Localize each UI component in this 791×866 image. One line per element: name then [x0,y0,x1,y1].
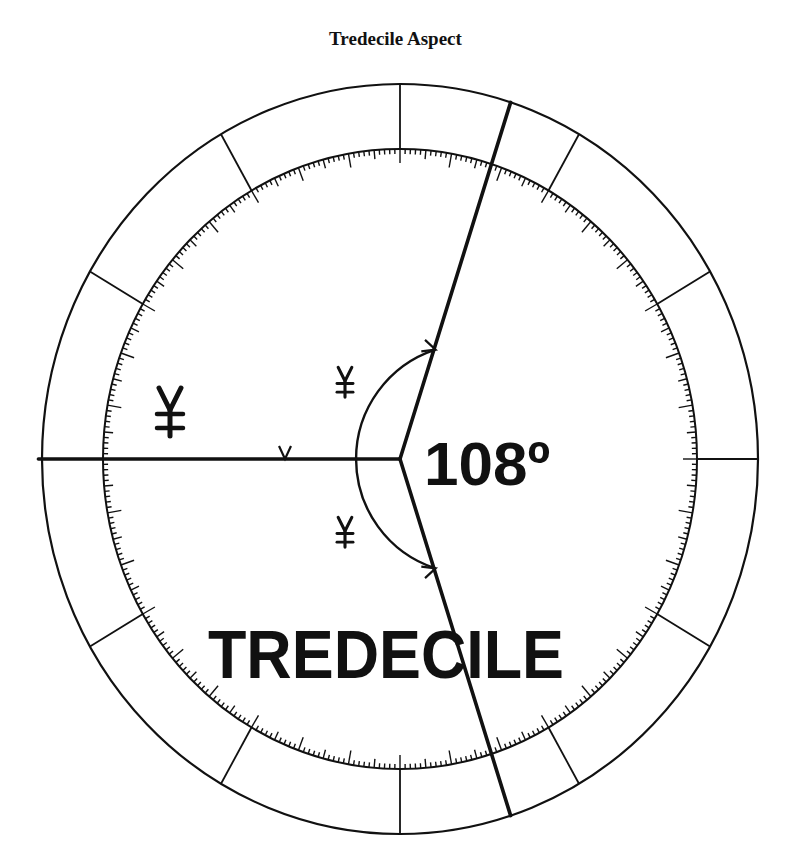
sector-divider [657,272,710,305]
tredecile-glyph-upper-arc [337,367,353,397]
aspect-name-label: TREDECILE [208,616,564,692]
aspect-wheel-diagram: 108º TREDECILE [0,0,791,866]
sector-divider [90,614,143,647]
aspect-angle-label: 108º [424,429,550,498]
sector-divider [90,272,143,305]
sector-divider [549,727,580,783]
tredecile-glyph-outer [157,388,183,436]
sector-divider [657,614,710,647]
sector-divider [221,134,252,190]
aspect-line-1 [400,102,511,459]
sector-divider [549,134,580,190]
sector-divider [221,727,252,783]
tredecile-glyph-lower-arc [337,517,353,547]
